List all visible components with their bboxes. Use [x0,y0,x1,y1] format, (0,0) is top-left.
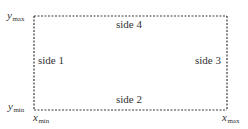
y-min-label: ymin [8,101,24,116]
side-3-label: side 3 [195,55,221,66]
x-max-label: xmax [222,112,239,127]
side-1-label: side 1 [38,55,64,66]
x-min-label: xmin [33,112,49,127]
y-max-sub: max [12,15,24,23]
x-max-sub: max [227,117,239,125]
y-max-label: ymax [7,10,24,25]
side-2-label: side 2 [116,94,142,105]
y-min-sub: min [13,106,24,114]
side-4-label: side 4 [116,19,142,30]
x-min-sub: min [38,117,49,125]
